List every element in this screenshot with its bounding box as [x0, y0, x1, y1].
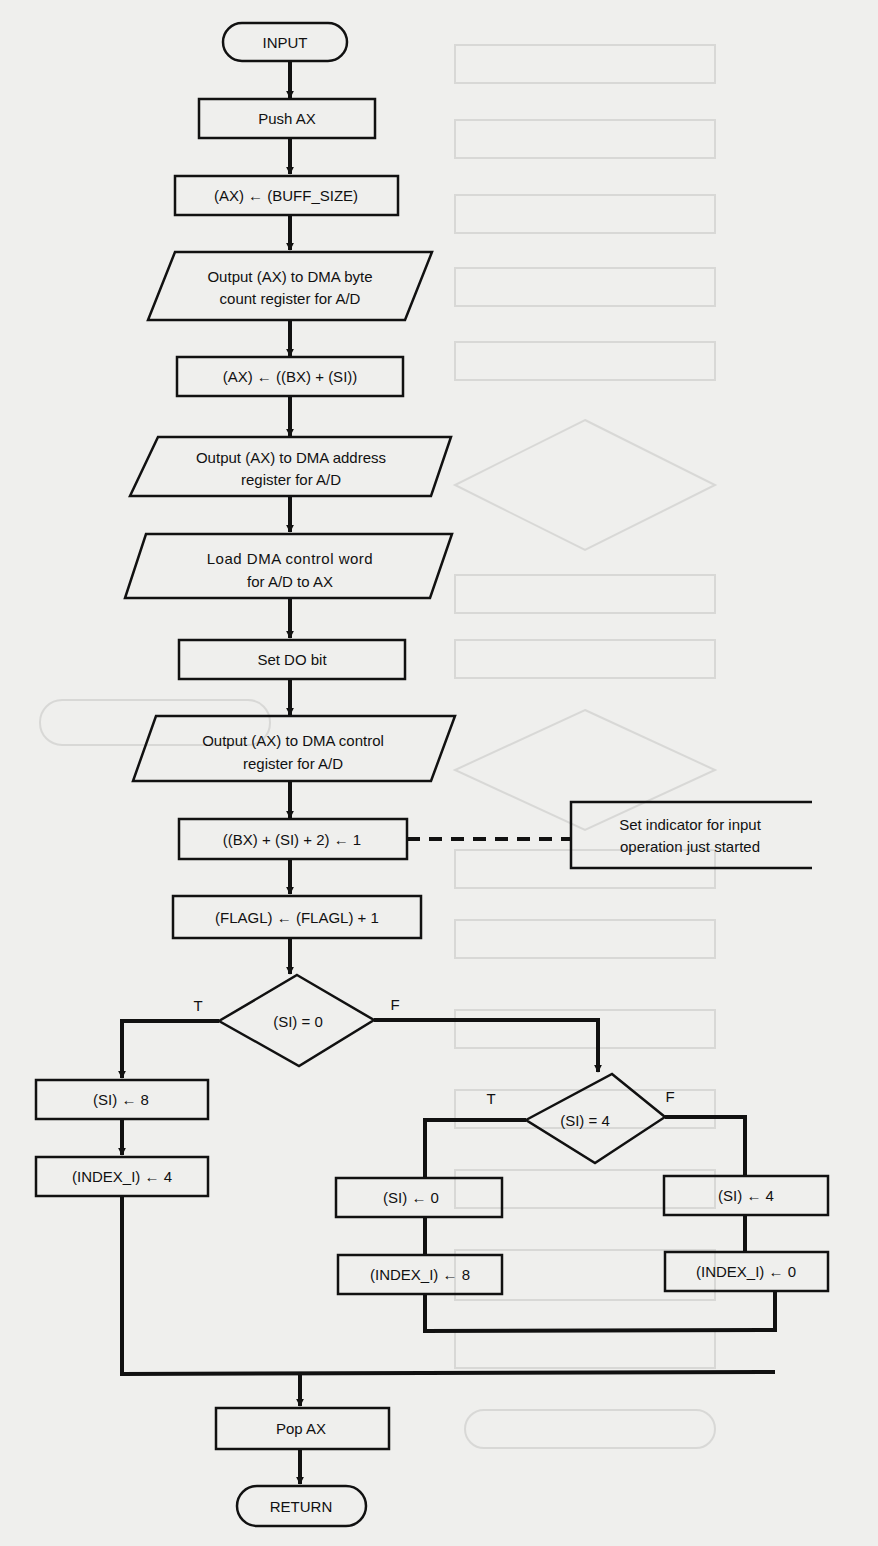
io-output-address: Output (AX) to DMA address register for … [130, 437, 451, 496]
step-push-ax: Push AX [199, 99, 375, 138]
io-output-control: Output (AX) to DMA control register for … [133, 716, 455, 781]
step-pop-ax: Pop AX [216, 1408, 389, 1449]
io-load-control-word: Load DMA control word for A/D to AX [125, 534, 452, 598]
annotation-comment: Set indicator for input operation just s… [407, 802, 812, 868]
start-terminal: INPUT [223, 23, 347, 61]
svg-text:register for A/D: register for A/D [241, 471, 341, 488]
svg-text:(SI) ← 4: (SI) ← 4 [718, 1187, 774, 1204]
step-load-address: (AX) ← ((BX) + (SI)) [177, 357, 403, 396]
svg-text:Output (AX) to DMA control: Output (AX) to DMA control [202, 732, 384, 749]
step-set-indicator: ((BX) + (SI) + 2) ← 1 [179, 819, 407, 859]
svg-text:operation just started: operation just started [620, 838, 760, 855]
svg-text:Set indicator for input: Set indicator for input [619, 816, 762, 833]
io-output-byte-count: Output (AX) to DMA byte count register f… [148, 252, 432, 320]
svg-text:Set DO bit: Set DO bit [257, 651, 327, 668]
svg-text:(AX) ← ((BX) + (SI)): (AX) ← ((BX) + (SI)) [223, 368, 358, 385]
step-load-buff-size: (AX) ← (BUFF_SIZE) [175, 176, 398, 215]
branch-label-true-2: T [486, 1090, 495, 1107]
branch-label-true: T [193, 997, 202, 1014]
branch-label-false-2: F [665, 1088, 674, 1105]
branch-label-false: F [390, 996, 399, 1013]
start-label: INPUT [263, 34, 308, 51]
merge-connectors [122, 1196, 775, 1484]
svg-text:(INDEX_I) ← 8: (INDEX_I) ← 8 [370, 1266, 470, 1283]
decision-si-equals-0: (SI) = 0 [219, 975, 374, 1066]
svg-text:(AX) ← (BUFF_SIZE): (AX) ← (BUFF_SIZE) [214, 187, 358, 204]
svg-text:Pop AX: Pop AX [276, 1420, 326, 1437]
step-increment-flagl: (FLAGL) ← (FLAGL) + 1 [173, 896, 421, 938]
step-si-4: (SI) ← 4 [664, 1176, 828, 1215]
svg-text:(INDEX_I) ← 4: (INDEX_I) ← 4 [72, 1168, 172, 1185]
svg-text:Output (AX) to DMA byte: Output (AX) to DMA byte [207, 268, 372, 285]
end-label: RETURN [270, 1498, 333, 1515]
step-index-8: (INDEX_I) ← 8 [338, 1255, 502, 1294]
decision-si-equals-4: (SI) = 4 [526, 1074, 665, 1163]
step-si-0: (SI) ← 0 [336, 1178, 502, 1217]
svg-text:(SI) = 4: (SI) = 4 [560, 1112, 610, 1129]
step-index-4: (INDEX_I) ← 4 [36, 1157, 208, 1196]
svg-text:(SI) ← 0: (SI) ← 0 [383, 1189, 439, 1206]
step-index-0: (INDEX_I) ← 0 [665, 1252, 828, 1291]
step-set-do-bit: Set DO bit [179, 640, 405, 679]
svg-text:(FLAGL) ← (FLAGL) + 1: (FLAGL) ← (FLAGL) + 1 [215, 909, 379, 926]
flowchart-canvas: INPUT Push AX (AX) ← (BUFF_SIZE) Output … [0, 0, 878, 1546]
svg-text:Push AX: Push AX [258, 110, 316, 127]
svg-text:((BX) + (SI) + 2) ← 1: ((BX) + (SI) + 2) ← 1 [223, 831, 361, 848]
svg-text:(INDEX_I) ← 0: (INDEX_I) ← 0 [696, 1263, 796, 1280]
svg-text:count register for A/D: count register for A/D [220, 290, 361, 307]
svg-text:(SI) = 0: (SI) = 0 [273, 1013, 323, 1030]
svg-text:(SI) ← 8: (SI) ← 8 [93, 1091, 149, 1108]
svg-text:register for A/D: register for A/D [243, 755, 343, 772]
step-si-8: (SI) ← 8 [36, 1080, 208, 1119]
svg-text:Output (AX) to DMA address: Output (AX) to DMA address [196, 449, 386, 466]
end-terminal: RETURN [237, 1486, 366, 1526]
comment-bracket [571, 802, 812, 868]
svg-text:Load DMA control word: Load DMA control word [207, 550, 373, 567]
svg-text:for A/D to AX: for A/D to AX [247, 573, 333, 590]
